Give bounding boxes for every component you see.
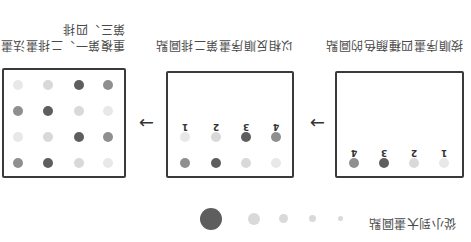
step2-row2-dot-2: [241, 132, 251, 142]
legend-dot-extra-large: [200, 208, 222, 230]
legend-dot-large: [248, 213, 260, 225]
step2-label-4: 4: [270, 122, 282, 132]
step3-dot: [13, 158, 23, 168]
step3-dot: [43, 106, 53, 116]
step1-label-1: 1: [438, 148, 450, 158]
step2-row1-dot-4: [180, 158, 190, 168]
step2-row2-dot-4: [180, 132, 190, 142]
step2-label-1: 1: [179, 122, 191, 132]
step3-dot: [43, 158, 53, 168]
legend-dot-small: [309, 215, 316, 222]
step3-dot: [103, 80, 113, 90]
step2-row1-dot-1: [271, 158, 281, 168]
step1-dot-4: [349, 158, 359, 168]
step3-dot: [13, 132, 23, 142]
step3-caption-line1: 重複第一、二排畫法畫: [0, 37, 125, 52]
legend-dot-medium: [279, 214, 288, 223]
step1-label-4: 4: [348, 148, 360, 158]
step2-caption: 以相反順序畫第二排圓點: [156, 37, 294, 52]
arrow-right-icon: →: [139, 114, 154, 132]
step3-dot: [43, 132, 53, 142]
step3-dot: [74, 158, 84, 168]
step3-dot: [103, 132, 113, 142]
step1-dot-3: [379, 158, 389, 168]
step1-dot-1: [439, 158, 449, 168]
step1-label-2: 2: [408, 148, 420, 158]
step2-row2-dot-3: [211, 132, 221, 142]
step3-dot: [74, 106, 84, 116]
step1-label-3: 3: [378, 148, 390, 158]
arrow-right-icon: →: [310, 114, 325, 132]
step2-row1-dot-3: [211, 158, 221, 168]
step1-dot-2: [409, 158, 419, 168]
step2-label-3: 3: [240, 122, 252, 132]
step3-dot: [74, 132, 84, 142]
step3-dot: [43, 80, 53, 90]
diagram-stage: 從小到大畫圓點 1 2 3 4 按順序畫四種顏色的圓點 → 4 3 2 1 以相…: [0, 0, 471, 242]
step3-dot: [74, 80, 84, 90]
step3-dot: [13, 106, 23, 116]
step3-dot: [103, 106, 113, 116]
legend-dot-tiny: [338, 216, 343, 221]
step2-row1-dot-2: [241, 158, 251, 168]
step3-caption-line2: 第三、四排: [63, 21, 126, 36]
step1-caption: 按順序畫四種顏色的圓點: [326, 37, 464, 52]
step3-dot: [103, 158, 113, 168]
step2-label-2: 2: [210, 122, 222, 132]
legend-caption: 從小到大畫圓點: [369, 215, 457, 230]
step2-row2-dot-1: [271, 132, 281, 142]
step3-dot: [13, 80, 23, 90]
